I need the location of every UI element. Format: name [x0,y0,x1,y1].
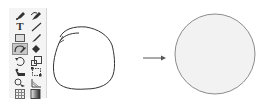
arrow-right-icon [143,56,166,61]
diagram-canvas [0,0,263,104]
perfect-circle [175,14,255,94]
